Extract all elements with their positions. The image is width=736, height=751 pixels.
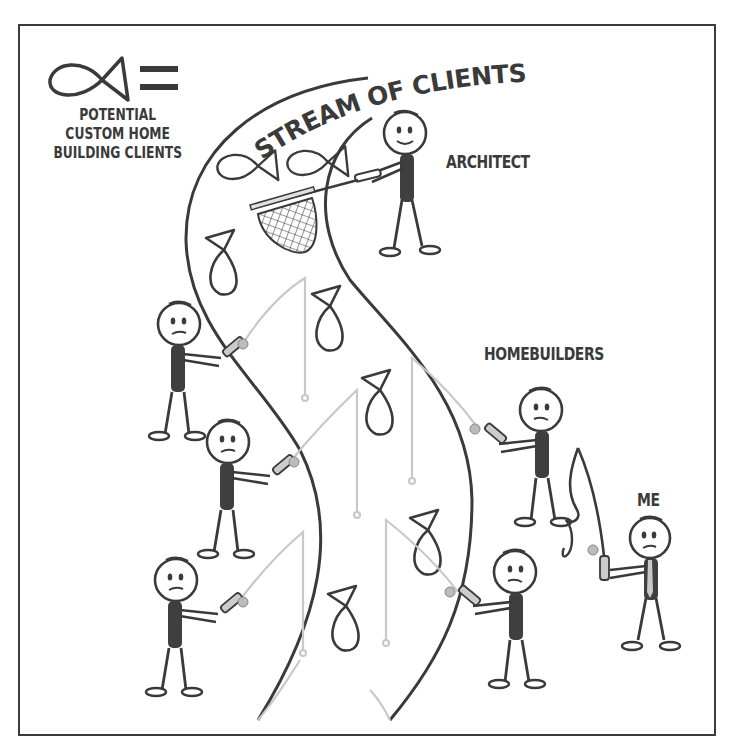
fishing-lines [240, 278, 478, 720]
homebuilder-figure [470, 388, 571, 526]
legend-line: POTENTIAL [48, 106, 187, 125]
legend-equals-icon [140, 66, 178, 90]
legend-caption: POTENTIAL CUSTOM HOME BUILDING CLIENTS [48, 106, 187, 163]
fish-icon [206, 230, 236, 295]
label-architect: ARCHITECT [446, 152, 530, 172]
fish-icon [217, 150, 278, 180]
legend-line: BUILDING CLIENTS [48, 144, 187, 163]
homebuilder-figure [146, 558, 248, 696]
homebuilder-figure [445, 550, 545, 688]
fish-icon [362, 370, 392, 435]
label-homebuilders: HOMEBUILDERS [484, 344, 604, 364]
homebuilder-figure [198, 420, 299, 558]
net-icon [258, 198, 316, 253]
stream-title: STREAM OF CLIENTS [249, 59, 527, 165]
me-figure [610, 517, 680, 650]
fish-icon [328, 586, 358, 651]
fish-icon [287, 146, 348, 176]
tangled-rod-icon [563, 448, 609, 580]
fish-icon [312, 286, 342, 351]
legend-fish-icon [50, 58, 128, 100]
label-me: ME [637, 490, 660, 510]
stream-banks [186, 78, 472, 720]
legend-line: CUSTOM HOME [48, 125, 187, 144]
